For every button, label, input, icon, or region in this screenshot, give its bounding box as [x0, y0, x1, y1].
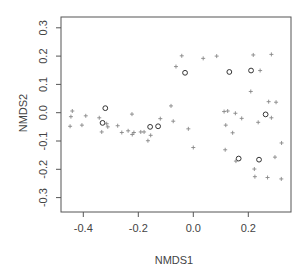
y-tick-label: 0.3 [37, 20, 49, 35]
site-point-circle [236, 156, 241, 161]
x-tick-label: -0.4 [74, 222, 93, 234]
data-points [68, 52, 283, 181]
x-axis-title: NMDS1 [155, 254, 194, 266]
species-point-plus [84, 114, 88, 118]
species-point-plus [126, 129, 130, 133]
species-point-plus [233, 111, 237, 115]
species-point-plus [256, 120, 260, 124]
species-point-plus [251, 53, 255, 57]
species-point-plus [70, 109, 74, 113]
species-point-plus [100, 130, 104, 134]
species-point-plus [116, 124, 120, 128]
site-point-circle [103, 106, 108, 111]
species-point-plus [269, 52, 273, 56]
x-tick-label: 0.2 [241, 222, 256, 234]
species-point-plus [234, 159, 238, 163]
species-point-plus [146, 139, 150, 143]
species-point-plus [226, 109, 230, 113]
y-tick-label: -0.3 [37, 188, 49, 207]
species-point-plus [69, 115, 73, 119]
species-point-plus [240, 116, 244, 120]
species-point-plus [180, 54, 184, 58]
species-point-plus [267, 100, 271, 104]
species-point-plus [253, 175, 257, 179]
species-point-plus [169, 104, 173, 108]
y-tick-label: -0.2 [37, 160, 49, 179]
species-point-plus [222, 110, 226, 114]
y-tick-label: 0.1 [37, 77, 49, 92]
species-point-plus [269, 116, 273, 120]
species-point-plus [97, 116, 101, 120]
species-point-plus [215, 54, 219, 58]
species-point-plus [223, 148, 227, 152]
site-point-circle [148, 124, 153, 129]
species-point-plus [149, 133, 153, 137]
species-point-plus [201, 56, 205, 60]
site-point-circle [249, 68, 254, 73]
site-point-circle [257, 157, 262, 162]
site-point-circle [156, 124, 161, 129]
x-axis: -0.4-0.20.00.2 [74, 212, 256, 234]
species-point-plus [171, 119, 175, 123]
species-point-plus [224, 123, 228, 127]
y-tick-label: 0.2 [37, 48, 49, 63]
site-point-circle [183, 70, 188, 75]
x-tick-label: 0.0 [186, 222, 201, 234]
y-axis-title: NMDS2 [17, 94, 29, 133]
species-point-plus [273, 155, 277, 159]
species-point-plus [158, 117, 162, 121]
species-point-plus [186, 127, 190, 131]
species-point-plus [252, 167, 256, 171]
species-point-plus [68, 124, 72, 128]
species-point-plus [279, 177, 283, 181]
species-point-plus [274, 100, 278, 104]
species-point-plus [191, 146, 195, 150]
site-point-circle [227, 70, 232, 75]
plot-frame [61, 17, 291, 212]
species-point-plus [249, 89, 253, 93]
site-point-circle [263, 112, 268, 117]
species-point-plus [280, 141, 284, 145]
y-tick-label: 0.0 [37, 105, 49, 120]
species-point-plus [266, 176, 270, 180]
y-axis: -0.3-0.2-0.10.00.10.20.3 [37, 20, 61, 207]
nmds-scatter-plot: -0.4-0.20.00.2 -0.3-0.2-0.10.00.10.20.3 … [0, 0, 305, 275]
species-point-plus [174, 65, 178, 69]
species-point-plus [258, 69, 262, 73]
x-tick-label: -0.2 [129, 222, 148, 234]
site-point-circle [100, 120, 105, 125]
species-point-plus [231, 131, 235, 135]
y-tick-label: -0.1 [37, 132, 49, 151]
species-point-plus [120, 131, 124, 135]
species-point-plus [142, 130, 146, 134]
species-point-plus [80, 123, 84, 127]
species-point-plus [130, 112, 134, 116]
